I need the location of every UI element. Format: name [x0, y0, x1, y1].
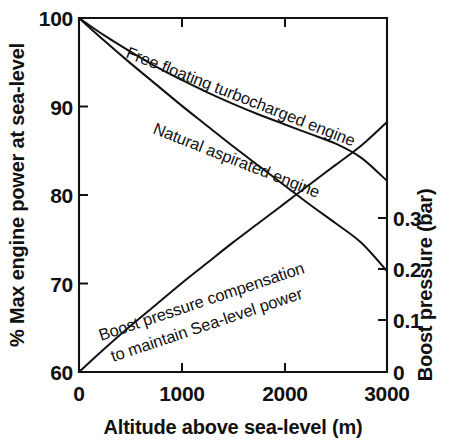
- chart-svg: 100 90 80 70 60 0.3 0.2 0.1 0 0 1000 200…: [0, 0, 452, 442]
- x-axis-tick-labels: 0 1000 2000 3000: [73, 382, 409, 405]
- x-tick-label-2000: 2000: [262, 382, 308, 405]
- x-tick-label-1000: 1000: [159, 382, 205, 405]
- x-tick-label-3000: 3000: [364, 382, 410, 405]
- y-axis-left-tick-labels: 100 90 80 70 60: [39, 7, 73, 384]
- y-tick-label-90: 90: [50, 96, 73, 119]
- x-tick-label-0: 0: [73, 382, 84, 405]
- y2-tick-label-0: 0: [393, 361, 404, 384]
- y-tick-label-70: 70: [50, 273, 73, 296]
- y-axis-right-ticks: [378, 218, 387, 372]
- y-tick-label-60: 60: [50, 361, 73, 384]
- chart-figure: 100 90 80 70 60 0.3 0.2 0.1 0 0 1000 200…: [0, 0, 452, 442]
- curve-label-natural-aspirated: Natural aspirated engine: [151, 119, 323, 201]
- y-axis-left-ticks: [79, 18, 88, 372]
- x-axis-title: Altitude above sea-level (m): [104, 416, 363, 438]
- y-axis-left-title: % Max engine power at sea-level: [6, 43, 28, 347]
- y-tick-label-80: 80: [50, 184, 73, 207]
- y-tick-label-100: 100: [39, 7, 73, 30]
- y-axis-right-title: Boost pressure (bar): [414, 189, 436, 382]
